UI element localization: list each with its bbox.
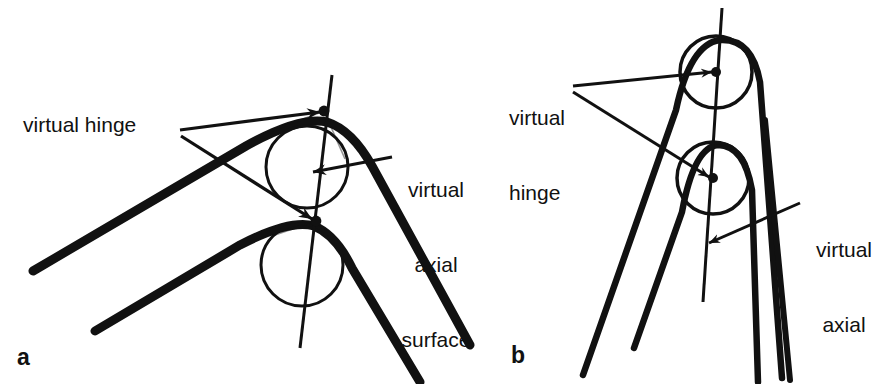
figure-container: virtual hinge virtual axial surface a vi…	[0, 0, 889, 384]
panel-a-virtual-axial-surface-label: virtual axial surface	[388, 127, 484, 384]
panel-a-virtual-hinge-dot-lower	[311, 216, 322, 227]
panel-b-vh-line-1: virtual	[509, 105, 565, 130]
panel-b-leader-virtual-hinge-upper	[573, 72, 712, 86]
panel-b-vh-line-2: hinge	[509, 180, 565, 205]
panel-a-vas-line-3: surface	[388, 327, 484, 352]
panel-b-virtual-hinge-dot-upper	[711, 67, 721, 77]
panel-b-id-label: b	[511, 342, 525, 369]
panel-a-virtual-axial-surface-line	[300, 75, 332, 348]
panel-a-virtual-hinge-dot-upper	[319, 106, 330, 117]
panel-b-virtual-hinge-label: virtual hinge	[509, 55, 565, 255]
panel-a-vas-line-1: virtual	[388, 177, 484, 202]
panel-b-vas-line-1: virtual	[798, 237, 889, 262]
panel-a-leader-virtual-axial-surface	[313, 157, 392, 172]
panel-a-virtual-hinge-label: virtual hinge	[23, 112, 136, 137]
panel-b-vas-line-2: axial	[798, 312, 889, 337]
panel-a-id-label: a	[17, 344, 30, 371]
panel-b-virtual-hinge-dot-lower	[708, 173, 718, 183]
panel-a-fold-bed-inner	[95, 225, 420, 382]
panel-b-virtual-axial-surface-label: virtual axial surface	[798, 187, 889, 384]
panel-b-geometry	[573, 8, 800, 382]
panel-b-leader-virtual-hinge-lower	[573, 92, 709, 177]
panel-a-vas-line-2: axial	[388, 252, 484, 277]
